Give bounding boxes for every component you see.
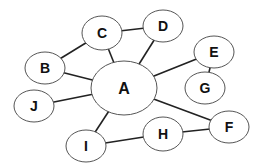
node-a: A bbox=[91, 61, 157, 115]
node-j: J bbox=[14, 90, 54, 122]
node-i: I bbox=[66, 130, 106, 162]
node-label: D bbox=[158, 18, 168, 34]
node-h: H bbox=[143, 117, 183, 151]
node-f: F bbox=[209, 111, 249, 143]
network-diagram: ABCDEGJIHF bbox=[0, 0, 260, 167]
node-b: B bbox=[25, 52, 65, 84]
node-label: F bbox=[225, 119, 234, 135]
node-label: B bbox=[40, 60, 50, 76]
node-g: G bbox=[185, 72, 225, 104]
node-label: H bbox=[158, 126, 168, 142]
node-c: C bbox=[82, 16, 122, 50]
node-label: I bbox=[84, 138, 88, 154]
node-label: C bbox=[97, 25, 107, 41]
node-d: D bbox=[143, 10, 183, 42]
node-e: E bbox=[194, 36, 234, 68]
node-label: G bbox=[200, 80, 211, 96]
node-label: J bbox=[30, 98, 38, 114]
node-label: E bbox=[209, 44, 218, 60]
node-label: A bbox=[118, 80, 130, 97]
